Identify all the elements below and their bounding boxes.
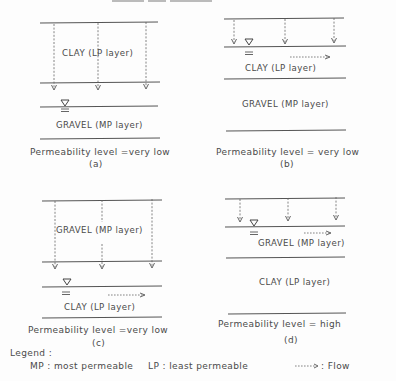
permeability-caption: Permeability level = very low (216, 147, 359, 157)
bottom-layer-label: GRAVEL (MP layer) (56, 120, 143, 130)
clay-bottom-boundary (228, 313, 346, 314)
legend-item-lp: LP : least permeable (148, 361, 248, 371)
bottom-layer-label: CLAY (LP layer) (64, 302, 135, 312)
clay-bottom-boundary (40, 82, 160, 83)
gravel-bottom-boundary (42, 261, 162, 262)
legend-item-flow: : Flow (321, 361, 350, 371)
gravel-top-boundary (224, 78, 346, 79)
bottom-layer-label: CLAY (LP layer) (259, 277, 330, 287)
panel-label: (a) (89, 159, 103, 169)
legend-title: Legend : (10, 348, 52, 358)
gravel-bottom-boundary (40, 138, 160, 139)
legend: Legend : MP : most permeable LP : least … (10, 348, 350, 371)
clay-top-boundary (42, 286, 162, 287)
permeability-caption: Permeability level = high (218, 319, 341, 329)
bottom-layer-label: GRAVEL (MP layer) (242, 99, 329, 109)
gravel-top-boundary (40, 106, 158, 107)
panel-label: (c) (92, 338, 105, 348)
top-layer-label: GRAVEL (MP layer) (56, 225, 143, 235)
infiltration-arrows (238, 197, 339, 222)
gravel-bottom-boundary (226, 257, 345, 258)
top-layer-label: CLAY (LP layer) (62, 48, 133, 58)
gravel-top-boundary (225, 226, 345, 227)
gravel-bottom-boundary (226, 130, 346, 131)
infiltration-arrows (232, 18, 337, 44)
panel-c: GRAVEL (MP layer) CLAY (LP layer) Permea… (28, 199, 168, 348)
aquifer-permeability-diagram: CLAY (LP layer) GRAVEL (MP layer) Permea… (0, 0, 396, 381)
legend-item-mp: MP : most permeable (30, 361, 133, 371)
clay-bottom-boundary (224, 46, 346, 47)
top-layer-label: CLAY (LP layer) (245, 63, 316, 73)
clay-top-boundary (40, 22, 158, 23)
panel-label: (d) (284, 335, 298, 345)
header-fragment (112, 0, 212, 2)
clay-bottom-boundary (42, 317, 162, 318)
permeability-caption: Permeability level =very low (30, 147, 170, 157)
gravel-top-boundary-upper (225, 198, 345, 199)
panel-label: (b) (280, 159, 294, 169)
lateral-flow-arrow (304, 231, 331, 235)
lateral-flow-arrow (290, 55, 330, 59)
panel-d: GRAVEL (MP layer) CLAY (LP layer) Permea… (218, 197, 346, 345)
clay-top-boundary (224, 18, 344, 19)
top-layer-label: GRAVEL (MP layer) (258, 238, 345, 248)
water-table-icon (61, 100, 69, 112)
permeability-caption: Permeability level =very low (28, 325, 168, 335)
lateral-flow-arrow (108, 293, 145, 297)
panel-a: CLAY (LP layer) GRAVEL (MP layer) Permea… (30, 22, 170, 169)
panel-b: CLAY (LP layer) GRAVEL (MP layer) Permea… (216, 18, 359, 169)
legend-flow-symbol (295, 364, 318, 368)
